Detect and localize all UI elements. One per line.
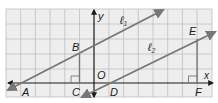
x-axis-label: x	[203, 70, 210, 81]
point-a-label: A	[21, 86, 29, 98]
point-d-label: D	[110, 86, 118, 98]
point-c-label: C	[72, 86, 80, 98]
point-b-label: B	[72, 41, 79, 53]
coordinate-diagram: y x O ℓ1 ℓ2 A B C D E F	[0, 0, 218, 103]
origin-label: O	[97, 69, 106, 81]
point-e-label: E	[189, 25, 197, 37]
